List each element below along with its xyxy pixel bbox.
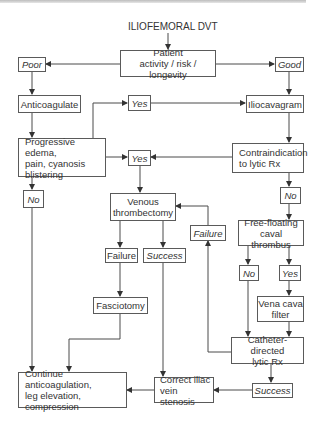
fasciotomy-box: Fasciotomy bbox=[93, 297, 148, 314]
progressive-edema-box: Progressive edema, pain, cyanosis bliste… bbox=[18, 138, 106, 177]
success-mid-label: Success bbox=[143, 248, 186, 263]
no-lower-label: No bbox=[239, 265, 259, 281]
good-label: Good bbox=[275, 57, 304, 72]
iliocavagram-box: Iliocavagram bbox=[246, 95, 304, 113]
failure-right-label: Failure bbox=[190, 225, 226, 241]
continue-anticoagulation-box: Continue anticoagulation, leg elevation,… bbox=[18, 372, 127, 408]
no-right-label: No bbox=[280, 187, 301, 204]
vena-cava-filter-box: Vena cava filter bbox=[257, 296, 304, 322]
free-floating-box: Free-floating caval thrombus bbox=[238, 220, 304, 246]
patient-box: Patient activity / risk / longevity bbox=[120, 50, 216, 77]
yes-top-label: Yes bbox=[128, 95, 151, 111]
poor-label: Poor bbox=[18, 57, 46, 72]
yes-mid-label: Yes bbox=[128, 150, 151, 166]
venous-thrombectomy-box: Venous thrombectomy bbox=[110, 193, 176, 221]
catheter-directed-box: Catheter-directed lytic Rx bbox=[231, 337, 304, 364]
correct-iliac-box: Correct iliac vein stenosis bbox=[154, 377, 214, 403]
anticoagulate-box: Anticoagulate bbox=[18, 95, 81, 113]
yes-lower-label: Yes bbox=[279, 265, 301, 281]
diagram-title: ILIOFEMORAL DVT bbox=[128, 21, 218, 32]
contraindication-box: Contraindication to lytic Rx bbox=[232, 143, 304, 173]
success-bottom-label: Success bbox=[252, 383, 293, 398]
no-left-label: No bbox=[23, 190, 44, 208]
failure-left-label: Failure bbox=[105, 248, 138, 263]
